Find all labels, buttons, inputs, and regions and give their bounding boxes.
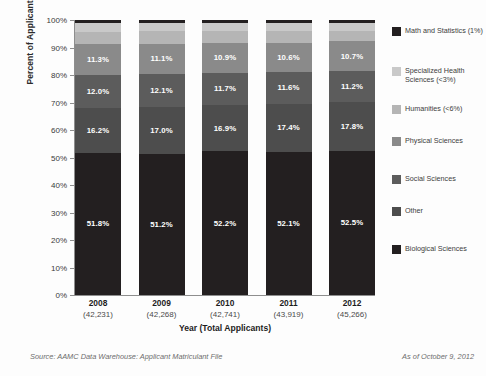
legend-label: Biological Sciences: [405, 244, 467, 253]
legend: Math and Statistics (1%)Specialized Heal…: [392, 26, 486, 286]
legend-swatch-icon: [392, 137, 401, 146]
bar-segment[interactable]: [202, 23, 248, 32]
legend-label: Physical Sciences: [405, 136, 463, 145]
bar-segment[interactable]: [75, 23, 121, 32]
legend-swatch-icon: [392, 105, 401, 114]
x-label-year: 2008: [75, 298, 121, 309]
legend-item[interactable]: Specialized Health Sciences (<3%): [392, 66, 486, 84]
bar-column[interactable]: 52.1%17.4%11.6%10.6%: [266, 20, 312, 295]
stacked-bar: 51.2%17.0%12.1%11.1%: [139, 20, 185, 295]
bar-column[interactable]: 51.2%17.0%12.1%11.1%: [139, 20, 185, 295]
x-label-year: 2012: [329, 298, 375, 309]
x-label-total: (42,268): [139, 309, 185, 320]
bar-segment[interactable]: [75, 32, 121, 44]
legend-item[interactable]: Physical Sciences: [392, 136, 486, 146]
bar-segment[interactable]: 10.7%: [329, 41, 375, 70]
bar-segment[interactable]: 10.6%: [266, 43, 312, 72]
y-tick-label: 100%: [47, 16, 67, 25]
bar-segment[interactable]: 11.7%: [202, 73, 248, 105]
legend-swatch-icon: [392, 67, 401, 76]
legend-item[interactable]: Biological Sciences: [392, 244, 486, 254]
x-label-total: (42,231): [75, 309, 121, 320]
legend-label: Humanities (<6%): [405, 104, 462, 113]
bar-segment[interactable]: [139, 31, 185, 43]
bar-segment[interactable]: 51.2%: [139, 154, 185, 295]
source-note: Source: AAMC Data Warehouse: Applicant M…: [30, 352, 222, 361]
bar-segment[interactable]: [266, 31, 312, 43]
bar-segment[interactable]: 51.8%: [75, 153, 121, 295]
legend-item[interactable]: Social Sciences: [392, 174, 486, 184]
bar-segment[interactable]: 12.1%: [139, 74, 185, 107]
y-tick-label: 10%: [51, 263, 67, 272]
y-tick-label: 50%: [51, 153, 67, 162]
plot-area: 0%10%20%30%40%50%60%70%80%90%100% 51.8%1…: [75, 20, 375, 295]
legend-item[interactable]: Math and Statistics (1%): [392, 26, 486, 36]
x-label-total: (42,741): [202, 309, 248, 320]
y-tick-label: 70%: [51, 98, 67, 107]
legend-label: Social Sciences: [405, 174, 456, 183]
as-of-note: As of October 9, 2012: [402, 352, 474, 361]
bar-segment[interactable]: [329, 31, 375, 42]
y-tick-label: 40%: [51, 181, 67, 190]
bar-segment[interactable]: 11.2%: [329, 71, 375, 102]
x-label-year: 2011: [266, 298, 312, 309]
bar-segment[interactable]: 11.3%: [75, 44, 121, 75]
x-label-year: 2010: [202, 298, 248, 309]
y-tick-label: 80%: [51, 71, 67, 80]
x-axis-title: Year (Total Applicants): [75, 323, 375, 333]
bar-segment[interactable]: 16.9%: [202, 105, 248, 151]
x-label-total: (43,919): [266, 309, 312, 320]
stacked-bar: 52.1%17.4%11.6%10.6%: [266, 20, 312, 295]
bar-segment[interactable]: 11.6%: [266, 72, 312, 104]
legend-item[interactable]: Other: [392, 206, 486, 216]
legend-item[interactable]: Humanities (<6%): [392, 104, 486, 114]
y-tick-label: 30%: [51, 208, 67, 217]
bar-column[interactable]: 52.2%16.9%11.7%10.9%: [202, 20, 248, 295]
y-axis-title: Percent of Applicants: [25, 0, 35, 100]
x-label-year: 2009: [139, 298, 185, 309]
legend-swatch-icon: [392, 207, 401, 216]
bar-segment[interactable]: [329, 23, 375, 31]
bar-segment[interactable]: [139, 23, 185, 32]
y-tick-label: 0%: [55, 291, 67, 300]
x-label-total: (45,266): [329, 309, 375, 320]
stacked-bar: 52.5%17.8%11.2%10.7%: [329, 20, 375, 295]
bar-segment[interactable]: [266, 23, 312, 32]
bar-segment[interactable]: [202, 31, 248, 43]
bar-column[interactable]: 51.8%16.2%12.0%11.3%: [75, 20, 121, 295]
bar-segment[interactable]: 10.9%: [202, 43, 248, 73]
y-tick-label: 90%: [51, 43, 67, 52]
chart-page: Percent of Applicants 0%10%20%30%40%50%6…: [0, 0, 486, 376]
y-tick-label: 60%: [51, 126, 67, 135]
bar-column[interactable]: 52.5%17.8%11.2%10.7%: [329, 20, 375, 295]
stacked-bar: 51.8%16.2%12.0%11.3%: [75, 20, 121, 295]
bar-segment[interactable]: 16.2%: [75, 108, 121, 153]
bar-segment[interactable]: 12.0%: [75, 75, 121, 108]
bar-segment[interactable]: 52.1%: [266, 152, 312, 295]
legend-swatch-icon: [392, 27, 401, 36]
bar-segment[interactable]: 17.4%: [266, 104, 312, 152]
x-axis-line: [74, 295, 375, 296]
legend-swatch-icon: [392, 175, 401, 184]
legend-label: Other: [405, 206, 423, 215]
bar-segment[interactable]: 17.8%: [329, 102, 375, 151]
bar-segment[interactable]: 11.1%: [139, 44, 185, 75]
legend-label: Math and Statistics (1%): [405, 26, 483, 35]
bar-segment[interactable]: 17.0%: [139, 107, 185, 154]
legend-label: Specialized Health Sciences (<3%): [405, 66, 486, 84]
y-tick-mark: [70, 295, 75, 296]
bar-group: 51.8%16.2%12.0%11.3%51.2%17.0%12.1%11.1%…: [75, 20, 375, 295]
legend-swatch-icon: [392, 245, 401, 254]
y-tick-label: 20%: [51, 236, 67, 245]
stacked-bar: 52.2%16.9%11.7%10.9%: [202, 20, 248, 295]
bar-segment[interactable]: 52.5%: [329, 151, 375, 295]
bar-segment[interactable]: 52.2%: [202, 151, 248, 295]
